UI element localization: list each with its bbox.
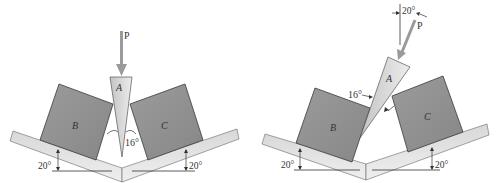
incline-right-angle-label: 20° bbox=[189, 161, 203, 171]
left-diagram: P A B C 16° 20° 20° bbox=[10, 30, 239, 182]
wedge-a-label: A bbox=[385, 73, 393, 84]
arrowhead-icon bbox=[184, 167, 188, 171]
incline-left-angle-label: 20° bbox=[281, 160, 295, 170]
force-angle-label: 20° bbox=[402, 6, 416, 16]
wedge-angle-arc-right bbox=[126, 130, 136, 134]
force-p-shaft bbox=[402, 20, 415, 52]
right-diagram: 20° P A B C 16° 20° 20° bbox=[262, 4, 489, 180]
arrowhead-icon bbox=[430, 166, 434, 170]
force-p-shaft bbox=[120, 31, 123, 67]
block-b-label: B bbox=[330, 122, 336, 133]
block-b-label: B bbox=[72, 120, 78, 131]
wedge-angle-leader bbox=[388, 106, 394, 111]
incline-right-angle-label: 20° bbox=[435, 160, 449, 170]
wedge-block-diagrams: P A B C 16° 20° 20° bbox=[0, 0, 499, 183]
block-c-label: C bbox=[424, 111, 431, 122]
force-p-label: P bbox=[417, 20, 423, 31]
force-p-arrowhead bbox=[116, 64, 127, 76]
wedge-angle-arc bbox=[107, 130, 118, 134]
arrowhead-icon bbox=[396, 11, 400, 15]
arrowhead-icon bbox=[384, 107, 389, 112]
arrowhead-icon bbox=[56, 167, 60, 171]
force-p-label: P bbox=[124, 30, 130, 41]
arrowhead-icon bbox=[369, 95, 373, 99]
wedge-angle-label: 16° bbox=[125, 137, 139, 148]
wedge-angle-label: 16° bbox=[348, 89, 362, 100]
arrowhead-icon bbox=[416, 12, 420, 16]
block-c-label: C bbox=[161, 120, 168, 131]
arrowhead-icon bbox=[298, 166, 302, 170]
angle-dimension-tick bbox=[420, 14, 427, 17]
incline-left-angle-label: 20° bbox=[38, 161, 52, 171]
wedge-a-label: A bbox=[115, 82, 123, 93]
